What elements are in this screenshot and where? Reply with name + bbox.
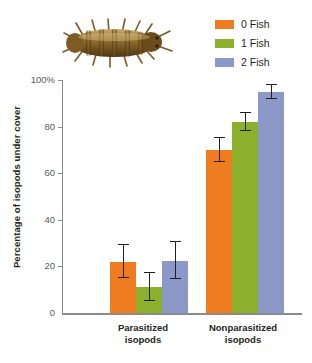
y-tick-60	[58, 173, 62, 174]
errorbar-cap-lower-parasitized-1-fish	[144, 300, 155, 301]
legend-swatch-1-fish	[215, 39, 234, 48]
errorbar-cap-upper-parasitized-2-fish	[170, 241, 181, 242]
y-tick-20	[58, 266, 62, 267]
errorbar-cap-upper-nonparasitized-2-fish	[266, 84, 277, 85]
errorbar-cap-lower-nonparasitized-0-fish	[214, 161, 225, 162]
y-tick-label-80: 80	[44, 122, 55, 132]
errorbar-cap-lower-parasitized-2-fish	[170, 278, 181, 279]
errorbar-nonparasitized-0-fish	[219, 138, 220, 161]
legend-swatch-2-fish	[215, 58, 234, 67]
legend-label-0-fish: 0 Fish	[241, 19, 270, 30]
y-tick-label-100: 100%	[31, 75, 55, 85]
category-label-nonparasitized: Nonparasitized isopods	[188, 322, 298, 346]
bar-nonparasitized-0-fish	[206, 150, 232, 313]
y-tick-label-60: 60	[44, 168, 55, 178]
category-label-parasitized-line1: Parasitized	[93, 322, 193, 334]
y-tick-80	[58, 127, 62, 128]
plot-area: 100% 80 60 40 20 0 Percentage of isopods…	[62, 80, 302, 313]
y-axis-title: Percentage of isopods under cover	[11, 106, 22, 268]
legend-item-1-fish[interactable]: 1 Fish	[215, 35, 270, 51]
errorbar-cap-upper-nonparasitized-1-fish	[240, 112, 251, 113]
legend: 0 Fish 1 Fish 2 Fish	[215, 16, 270, 73]
errorbar-parasitized-2-fish	[175, 242, 176, 279]
y-axis-line	[62, 80, 63, 313]
errorbar-cap-upper-parasitized-0-fish	[118, 244, 129, 245]
y-tick-label-0: 0	[50, 308, 55, 318]
bar-nonparasitized-1-fish	[232, 122, 258, 313]
errorbar-parasitized-0-fish	[123, 245, 124, 278]
errorbar-cap-lower-nonparasitized-1-fish	[240, 130, 251, 131]
y-tick-label-20: 20	[44, 261, 55, 271]
category-label-nonparasitized-line2: isopods	[188, 334, 298, 346]
errorbar-nonparasitized-2-fish	[271, 85, 272, 99]
y-tick-40	[58, 220, 62, 221]
errorbar-cap-lower-nonparasitized-2-fish	[266, 98, 277, 99]
y-tick-100	[58, 80, 62, 81]
figure-container: 0 Fish 1 Fish 2 Fish 100% 80 60 40 20 0 …	[0, 0, 312, 363]
errorbar-parasitized-1-fish	[149, 273, 150, 301]
category-label-nonparasitized-line1: Nonparasitized	[188, 322, 298, 334]
errorbar-nonparasitized-1-fish	[245, 113, 246, 132]
errorbar-cap-upper-nonparasitized-0-fish	[214, 137, 225, 138]
errorbar-cap-upper-parasitized-1-fish	[144, 272, 155, 273]
legend-swatch-0-fish	[215, 20, 234, 29]
y-tick-label-40: 40	[44, 215, 55, 225]
legend-label-2-fish: 2 Fish	[241, 57, 270, 68]
isopod-photo	[54, 11, 182, 73]
errorbar-cap-lower-parasitized-0-fish	[118, 277, 129, 278]
legend-label-1-fish: 1 Fish	[241, 38, 270, 49]
category-label-parasitized-line2: isopods	[93, 334, 193, 346]
category-label-parasitized: Parasitized isopods	[93, 322, 193, 346]
legend-item-0-fish[interactable]: 0 Fish	[215, 16, 270, 32]
x-axis-line	[62, 313, 302, 315]
bar-nonparasitized-2-fish	[258, 92, 284, 313]
legend-item-2-fish[interactable]: 2 Fish	[215, 54, 270, 70]
